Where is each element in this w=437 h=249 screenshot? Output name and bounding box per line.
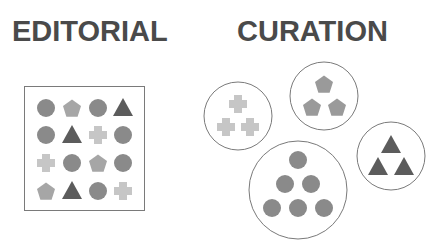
group-triangles xyxy=(357,122,425,190)
circle-icon xyxy=(315,199,333,217)
pentagon-icon xyxy=(315,76,333,93)
circle-icon xyxy=(114,154,132,172)
group-pentagons xyxy=(290,62,358,130)
circle-icon xyxy=(289,151,307,169)
group-outline xyxy=(357,122,425,190)
group-circles xyxy=(249,141,347,239)
cross-icon xyxy=(114,182,132,200)
triangle-icon xyxy=(113,98,133,116)
curation-groups xyxy=(204,62,425,239)
cross-icon xyxy=(37,154,55,172)
cross-icon xyxy=(241,118,259,136)
circle-icon xyxy=(302,175,320,193)
triangle-icon xyxy=(62,181,82,199)
pentagon-icon xyxy=(328,99,346,116)
cross-icon xyxy=(217,118,235,136)
group-outline xyxy=(204,82,272,150)
pentagon-icon xyxy=(63,100,81,117)
group-crosses xyxy=(204,82,272,150)
circle-icon xyxy=(114,126,132,144)
pentagon-icon xyxy=(37,183,55,200)
circle-icon xyxy=(37,99,55,117)
pentagon-icon xyxy=(303,99,321,116)
pentagon-icon xyxy=(89,155,107,172)
circle-icon xyxy=(63,154,81,172)
circle-icon xyxy=(289,199,307,217)
editorial-box xyxy=(25,87,145,211)
triangle-icon xyxy=(368,157,388,175)
circle-icon xyxy=(276,175,294,193)
triangle-icon xyxy=(381,135,401,153)
diagram-canvas xyxy=(0,0,437,249)
circle-icon xyxy=(89,182,107,200)
cross-icon xyxy=(229,95,247,113)
triangle-icon xyxy=(394,157,414,175)
circle-icon xyxy=(37,126,55,144)
circle-icon xyxy=(263,199,281,217)
group-outline xyxy=(290,62,358,130)
triangle-icon xyxy=(62,125,82,143)
cross-icon xyxy=(89,126,107,144)
circle-icon xyxy=(89,99,107,117)
